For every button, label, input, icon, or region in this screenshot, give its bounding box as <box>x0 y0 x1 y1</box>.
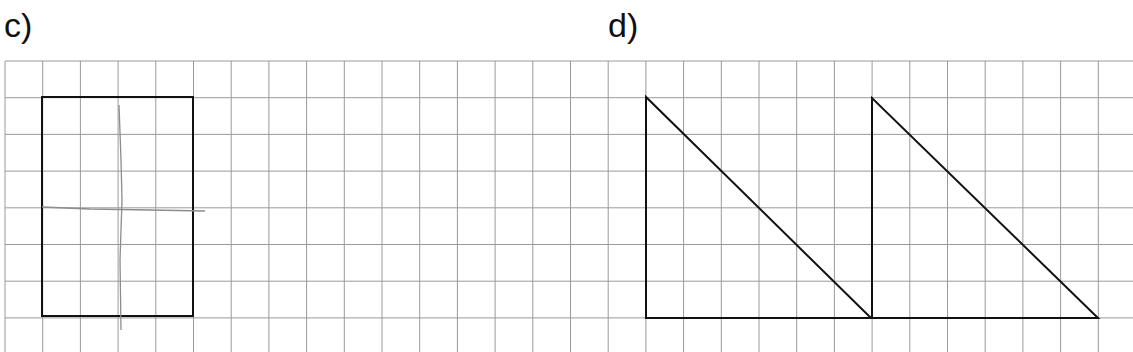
rectangle-shape <box>42 97 193 316</box>
grid-lines <box>5 61 1133 352</box>
pencil-vertical-line <box>119 105 122 330</box>
grid-paper <box>0 0 1133 352</box>
